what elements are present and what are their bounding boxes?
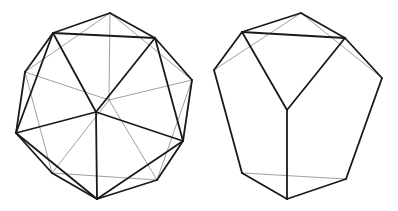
visible-edge	[53, 33, 96, 112]
visible-edge	[301, 13, 345, 38]
visible-edge	[97, 180, 157, 199]
polyhedra-diagram	[0, 0, 398, 211]
hidden-edge	[214, 13, 301, 70]
visible-edge	[16, 112, 96, 133]
hidden-edge	[25, 13, 110, 72]
right-polyhedron	[214, 13, 382, 199]
visible-edge	[242, 13, 301, 32]
hidden-edge	[301, 13, 382, 78]
visible-edge	[25, 33, 53, 72]
visible-edge	[242, 173, 287, 199]
visible-edge	[242, 32, 287, 110]
visible-edge	[183, 80, 192, 141]
hidden-edge	[242, 173, 346, 179]
visible-edge	[96, 38, 155, 112]
visible-edge	[16, 33, 53, 133]
visible-edge	[214, 32, 242, 70]
visible-edge	[345, 38, 382, 78]
visible-edge	[287, 179, 346, 199]
visible-edge	[287, 38, 345, 110]
visible-edge	[16, 72, 25, 133]
visible-edge	[52, 173, 97, 199]
visible-edge	[157, 141, 183, 180]
visible-edge	[214, 70, 242, 173]
visible-edge	[53, 13, 110, 33]
visible-edge	[242, 32, 345, 38]
left-polyhedron	[16, 13, 192, 199]
visible-edge	[110, 13, 155, 38]
visible-edge	[96, 112, 183, 141]
visible-edge	[53, 33, 155, 38]
hidden-edge	[157, 80, 192, 180]
visible-edge	[346, 78, 382, 179]
visible-edge	[16, 133, 97, 199]
hidden-edge	[52, 100, 109, 173]
visible-edge	[97, 141, 183, 199]
hidden-edge	[110, 13, 192, 80]
hidden-edge	[109, 80, 192, 100]
visible-edge	[96, 112, 97, 199]
hidden-edge	[109, 13, 110, 100]
hidden-edge	[109, 100, 157, 180]
